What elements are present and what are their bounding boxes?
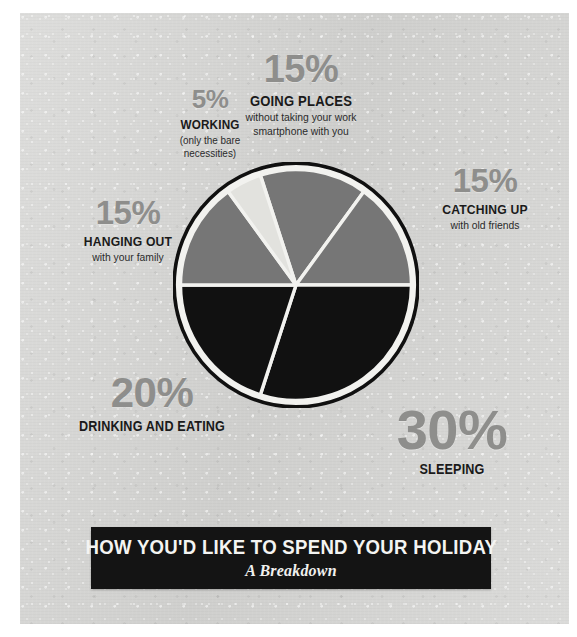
pie-label-catching-up: 15% CATCHING UP with old friends (410, 166, 560, 233)
pie-label-hanging-out-percent: 15% (62, 198, 194, 228)
pie-label-drinking-and-eating-caption: DRINKING AND EATING (66, 419, 239, 435)
pie-chart-svg (173, 162, 419, 408)
pie-label-catching-up-percent: 15% (410, 166, 560, 196)
pie-label-going-places-sub: without taking your worksmartphone with … (234, 111, 369, 138)
pie-label-drinking-and-eating-percent: 20% (56, 374, 248, 413)
pie-label-hanging-out-sub: with your family (69, 251, 188, 264)
pie-label-hanging-out-caption: HANGING OUT (69, 234, 188, 249)
title-banner: HOW YOU'D LIKE TO SPEND YOUR HOLIDAY A B… (91, 527, 491, 589)
pie-slice-group (181, 169, 412, 400)
pie-label-sleeping-percent: 30% (364, 404, 540, 456)
pie-label-sleeping: 30% SLEEPING (364, 404, 540, 477)
pie-label-going-places: 15% GOING PLACES without taking your wor… (226, 52, 376, 138)
infographic-page: 5% WORKING (only the barenecessities) 15… (0, 0, 577, 637)
pie-label-going-places-percent: 15% (226, 52, 376, 87)
pie-chart (173, 162, 419, 408)
pie-label-hanging-out: 15% HANGING OUT with your family (62, 198, 194, 265)
pie-label-sleeping-caption: SLEEPING (373, 462, 531, 478)
pie-label-drinking-and-eating: 20% DRINKING AND EATING (56, 374, 248, 434)
banner-subtitle: A Breakdown (245, 563, 337, 579)
pie-label-working-sub: (only the barenecessities) (161, 134, 260, 160)
pie-label-catching-up-caption: CATCHING UP (418, 202, 553, 217)
pie-label-catching-up-sub: with old friends (418, 219, 553, 232)
pie-label-going-places-caption: GOING PLACES (234, 93, 369, 109)
banner-title: HOW YOU'D LIKE TO SPEND YOUR HOLIDAY (85, 537, 497, 557)
